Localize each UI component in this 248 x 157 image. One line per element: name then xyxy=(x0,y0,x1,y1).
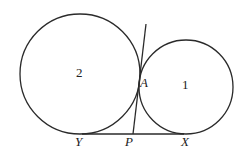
point-a-label: A xyxy=(139,75,148,90)
point-p-label: P xyxy=(124,134,133,149)
circle-1-label: 1 xyxy=(182,77,189,92)
circle-2-label: 2 xyxy=(76,65,83,80)
point-y-label: Y xyxy=(75,134,84,149)
tangent-circles-diagram: 2 1 A Y P X xyxy=(0,0,248,157)
point-x-label: X xyxy=(180,134,190,149)
